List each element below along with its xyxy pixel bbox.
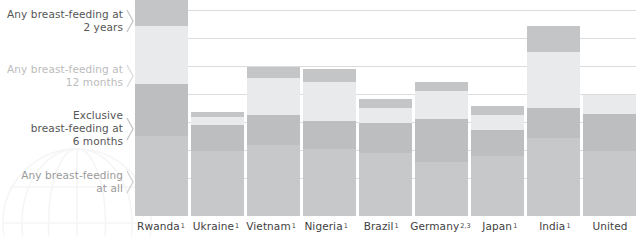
- bar-segment: [415, 162, 468, 216]
- chevron-right-icon: [126, 169, 135, 195]
- bar-segment: [191, 125, 244, 151]
- legend-label-line: Any breast-feeding at: [7, 63, 123, 76]
- x-axis-label: India1: [529, 216, 581, 236]
- bar-segment: [303, 149, 356, 216]
- x-axis-label: Vietnam1: [245, 216, 297, 236]
- bar-vietnam[interactable]: [247, 0, 300, 216]
- bar-segment: [527, 52, 580, 108]
- bar-segment: [359, 108, 412, 123]
- bar-segment: [247, 145, 300, 216]
- bar-segment: [471, 115, 524, 130]
- bar-segment: [471, 130, 524, 156]
- legend-item-exclusive-6-months: Exclusive breast-feeding at 6 months: [0, 109, 135, 148]
- bar-segment: [527, 108, 580, 138]
- x-axis-label: Rwanda1: [135, 216, 187, 236]
- x-axis-label: Brazil1: [355, 216, 407, 236]
- x-axis-labels: Rwanda1Ukraine1Vietnam1Nigeria1Brazil1Ge…: [135, 216, 636, 236]
- bar-segment: [471, 106, 524, 115]
- chevron-right-icon: [126, 116, 135, 142]
- bar-segment: [527, 26, 580, 52]
- bar-segment: [135, 0, 188, 26]
- x-axis-label: Nigeria1: [300, 216, 352, 236]
- legend-label-line: 2 years: [7, 21, 123, 34]
- legend-label-line: 6 months: [31, 135, 123, 148]
- legend-label-line: at all: [21, 182, 123, 195]
- bar-segment: [303, 69, 356, 82]
- x-axis-label: United: [584, 216, 636, 236]
- chevron-right-icon: [126, 8, 135, 34]
- bar-segment: [247, 78, 300, 115]
- legend-item-any-2-years: Any breast-feeding at 2 years: [0, 8, 135, 34]
- chevron-right-icon: [126, 63, 135, 89]
- bar-segment: [247, 67, 300, 78]
- bar-segment: [415, 119, 468, 162]
- bar-segment: [191, 117, 244, 126]
- x-axis-label: Germany2,3: [410, 216, 471, 236]
- legend-label-line: Any breast-feeding: [21, 169, 123, 182]
- legend-label-line: breast-feeding at: [31, 122, 123, 135]
- legend-item-any-12-months: Any breast-feeding at 12 months: [0, 63, 135, 89]
- bar-ukraine[interactable]: [191, 0, 244, 216]
- bar-rwanda[interactable]: [135, 0, 188, 216]
- bar-segment: [135, 84, 188, 136]
- bar-segment: [247, 115, 300, 145]
- bar-segment: [583, 95, 636, 114]
- bar-segment: [471, 156, 524, 216]
- bar-segment: [359, 123, 412, 153]
- bar-germany[interactable]: [415, 0, 468, 216]
- x-axis-label: Ukraine1: [190, 216, 242, 236]
- bar-segment: [583, 151, 636, 216]
- bar-segment: [583, 114, 636, 151]
- bar-segment: [359, 99, 412, 108]
- chart-legend: Any breast-feeding at 2 years Any breast…: [0, 0, 135, 216]
- legend-label-line: 12 months: [7, 76, 123, 89]
- bar-nigeria[interactable]: [303, 0, 356, 216]
- bar-segment: [135, 136, 188, 216]
- bar-segment: [359, 153, 412, 216]
- legend-label-line: Any breast-feeding at: [7, 8, 123, 21]
- bar-united[interactable]: [583, 0, 636, 216]
- bar-india[interactable]: [527, 0, 580, 216]
- legend-item-any-at-all: Any breast-feeding at all: [0, 169, 135, 195]
- bar-segment: [303, 121, 356, 149]
- bar-segment: [527, 138, 580, 216]
- bar-segment: [303, 82, 356, 121]
- bar-group: [135, 0, 636, 216]
- bar-segment: [191, 151, 244, 216]
- bar-segment: [415, 82, 468, 91]
- bar-japan[interactable]: [471, 0, 524, 216]
- plot-area: [135, 0, 636, 216]
- legend-label-line: Exclusive: [31, 109, 123, 122]
- bar-brazil[interactable]: [359, 0, 412, 216]
- x-axis-label: Japan1: [474, 216, 526, 236]
- bar-segment: [415, 91, 468, 119]
- stacked-bar-chart: Any breast-feeding at 2 years Any breast…: [0, 0, 636, 236]
- bar-segment: [135, 26, 188, 84]
